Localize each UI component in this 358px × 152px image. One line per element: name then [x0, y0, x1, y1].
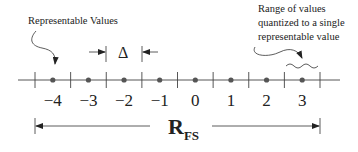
value-label: 0 — [191, 91, 200, 110]
range-label-line-1: Range of values — [258, 3, 326, 14]
representable-values-label: Representable Values — [28, 15, 118, 26]
delta-label: Δ — [118, 44, 128, 61]
representable-value-dot — [157, 77, 162, 82]
representable-value-dot — [300, 77, 305, 82]
quantizer-diagram: Representable Values Range of values qua… — [0, 0, 358, 152]
value-label: −3 — [79, 91, 97, 110]
representable-values-arrow — [32, 31, 55, 64]
value-label: −4 — [44, 91, 63, 110]
representable-value-dot — [264, 77, 269, 82]
representable-value-dot — [50, 77, 55, 82]
value-label: 3 — [298, 91, 307, 110]
value-label: −2 — [115, 91, 133, 110]
value-labels: −4−3−2−10123 — [44, 91, 307, 110]
range-label-line-2: quantized to a single — [258, 17, 345, 28]
value-label: 2 — [262, 91, 271, 110]
range-brace — [286, 64, 318, 68]
representable-value-dot — [86, 77, 91, 82]
rfs-label: RFS — [168, 114, 199, 143]
rfs-main: R — [168, 114, 185, 139]
rfs-subscript: FS — [184, 128, 199, 143]
range-arrow — [254, 47, 302, 58]
representable-value-dot — [121, 77, 126, 82]
representable-value-dot — [228, 77, 233, 82]
representable-value-dot — [193, 77, 198, 82]
value-label: 1 — [227, 91, 236, 110]
value-label: −1 — [151, 91, 169, 110]
range-label-line-3: representable value — [258, 31, 340, 42]
